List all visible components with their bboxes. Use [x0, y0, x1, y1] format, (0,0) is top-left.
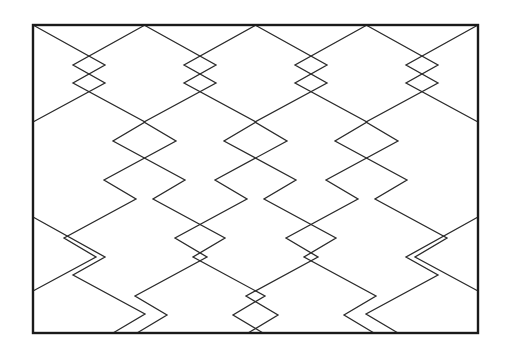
zigzag-figure-svg: Zigzag lattice line figure: [0, 0, 515, 356]
zigzag-down-right-3: [144, 25, 376, 333]
zigzag-down-left-2: [366, 217, 478, 333]
zigzag-down-left-5: [33, 25, 145, 122]
zigzag-down-right-1: [33, 25, 265, 333]
zigzag-down-left-4: [33, 25, 256, 291]
zigzag-down-right-2: [33, 217, 145, 333]
figure-canvas: Zigzag lattice line figure: [0, 0, 515, 356]
zigzag-path-group: [33, 25, 478, 333]
border-rectangle: [33, 25, 478, 333]
zigzag-down-left-1: [246, 25, 478, 333]
zigzag-down-left-3: [135, 25, 367, 333]
